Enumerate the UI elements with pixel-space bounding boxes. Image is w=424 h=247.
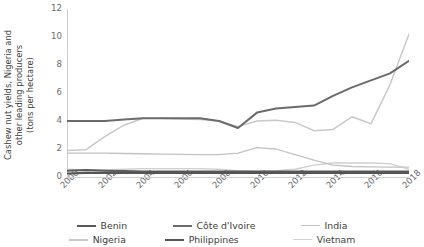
series-line-india: [67, 148, 409, 168]
y-axis-title-line-2: other leading producers: [14, 30, 25, 160]
y-axis-tick-label: 8: [40, 59, 62, 69]
y-axis-title-line-1: Cashew nut yields, Nigeria and: [3, 30, 14, 160]
legend-item-benin[interactable]: Benin: [77, 220, 173, 231]
legend-item-philippines[interactable]: Philippines: [165, 234, 293, 245]
y-axis-tick-label: 2: [40, 143, 62, 153]
legend-item-india[interactable]: India: [301, 220, 348, 231]
y-axis-tick-label: 0: [40, 171, 62, 181]
legend-swatch: [69, 239, 88, 241]
legend-label: Côte d'Ivoire: [197, 220, 256, 231]
legend-swatch: [165, 239, 184, 241]
legend-swatch: [301, 225, 320, 226]
legend-item-nigeria[interactable]: Nigeria: [69, 234, 165, 245]
series-line-philippines: [67, 173, 409, 174]
chart-container: Cashew nut yields, Nigeria and other lea…: [0, 0, 424, 247]
legend-label: Benin: [101, 220, 127, 231]
legend-label: Vietnam: [317, 234, 356, 245]
legend-row: NigeriaPhilippinesVietnam: [69, 234, 356, 245]
y-axis-title-line-3: (tons per hectare): [26, 30, 37, 160]
series-line-c-te-d-ivoire: [67, 61, 409, 128]
legend-swatch: [173, 225, 192, 227]
y-axis-title-wrap: Cashew nut yields, Nigeria and other lea…: [0, 0, 40, 190]
legend-item-c-te-d-ivoire[interactable]: Côte d'Ivoire: [173, 220, 301, 231]
chart-legend: BeninCôte d'IvoireIndiaNigeriaPhilippine…: [0, 220, 424, 245]
plot-svg: [67, 9, 409, 178]
y-axis-tick-label: 12: [40, 3, 62, 13]
y-axis-tick-label: 10: [40, 31, 62, 41]
y-axis-tick-label: 4: [40, 115, 62, 125]
series-line-nigeria: [67, 34, 409, 150]
y-axis-tick-label: 6: [40, 87, 62, 97]
legend-swatch: [77, 225, 96, 227]
legend-item-vietnam[interactable]: Vietnam: [293, 234, 356, 245]
y-axis-title: Cashew nut yields, Nigeria and other lea…: [3, 30, 37, 160]
legend-swatch: [293, 239, 312, 240]
legend-label: India: [325, 220, 348, 231]
plot-area: [67, 9, 409, 177]
legend-row: BeninCôte d'IvoireIndia: [77, 220, 348, 231]
legend-label: Philippines: [189, 234, 239, 245]
legend-label: Nigeria: [93, 234, 126, 245]
